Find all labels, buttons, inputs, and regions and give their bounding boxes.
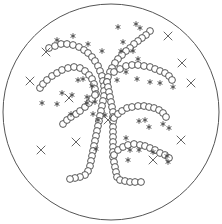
asterisk-icon bbox=[136, 57, 140, 62]
colony-circle-icon bbox=[163, 114, 170, 121]
cross-icon bbox=[65, 94, 73, 102]
colony-circle-icon bbox=[92, 92, 99, 99]
asterisk-icon bbox=[126, 158, 130, 163]
cross-icon bbox=[187, 79, 195, 87]
asterisk-icon bbox=[71, 34, 75, 39]
petri-dish-diagram bbox=[0, 0, 222, 224]
asterisk-icon bbox=[137, 119, 141, 124]
asterisk-icon bbox=[167, 126, 171, 131]
asterisk-icon bbox=[124, 70, 128, 75]
asterisk-icon bbox=[40, 101, 44, 106]
asterisk-icon bbox=[115, 78, 119, 83]
colony-pattern-figure bbox=[0, 0, 222, 224]
asterisk-icon bbox=[121, 40, 125, 45]
asterisk-icon bbox=[100, 49, 104, 54]
asterisk-icon bbox=[76, 78, 80, 83]
asterisk-icon bbox=[116, 25, 120, 30]
cross-icon bbox=[149, 156, 157, 164]
asterisk-icon bbox=[148, 80, 152, 85]
asterisk-icon bbox=[158, 81, 162, 86]
asterisk-icon bbox=[134, 22, 138, 27]
asterisk-icon bbox=[124, 136, 128, 141]
cross-icon bbox=[177, 136, 185, 144]
asterisk-icon bbox=[171, 85, 175, 90]
colony-circle-icon bbox=[169, 77, 176, 84]
chain-middle-left-arc bbox=[37, 64, 100, 98]
chain-lower-right-upper-branch bbox=[111, 103, 170, 122]
asterisk-icon bbox=[138, 26, 142, 31]
asterisk-icon bbox=[135, 77, 139, 82]
cross-icon bbox=[37, 146, 45, 154]
asterisk-icon bbox=[161, 122, 165, 127]
asterisk-icon bbox=[86, 42, 90, 47]
asterisk-icon bbox=[81, 77, 85, 82]
chain-lower-left-branch bbox=[60, 92, 99, 128]
colony-circle-icon bbox=[138, 179, 145, 186]
colony-circle-icon bbox=[67, 176, 74, 183]
asterisk-icon bbox=[143, 118, 147, 123]
cross-icon bbox=[178, 59, 186, 67]
cross-icon bbox=[164, 32, 172, 40]
asterisk-icon bbox=[60, 91, 64, 96]
chain-right-trunk bbox=[104, 79, 145, 186]
chain-middle-right-branch bbox=[111, 62, 176, 84]
cross-icon bbox=[26, 77, 34, 85]
asterisk-icon bbox=[91, 112, 95, 117]
asterisk-icon bbox=[147, 125, 151, 130]
chain-lower-right-lower-branch bbox=[111, 141, 173, 162]
cross-icon bbox=[72, 138, 80, 146]
asterisk-icon bbox=[55, 102, 59, 107]
chain-upper-right-branch bbox=[104, 28, 154, 86]
